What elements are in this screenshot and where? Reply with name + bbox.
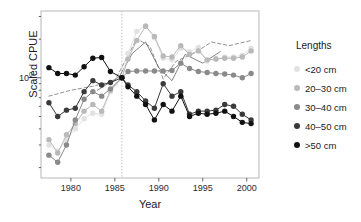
legend-item-label: <20 cm [305,64,336,75]
data-point [90,56,95,61]
data-point [73,72,78,77]
data-point [160,68,165,73]
data-point [108,80,113,85]
data-point [90,102,95,107]
x-axis-ticks [71,178,247,182]
data-point [222,102,227,107]
x-tick-label-1990: 1990 [147,183,171,193]
y-axis-label: Scaled CPUE [27,9,39,119]
data-point [134,93,139,98]
data-point [187,52,192,57]
x-axis-label: Year [41,198,259,210]
data-series [46,23,254,165]
data-point [99,108,104,113]
data-point [125,69,130,74]
legend-item-40-50: 40–50 cm [294,119,347,133]
series-0 [46,23,254,154]
legend-title: Lengths [296,40,332,51]
x-tick-label-2000: 2000 [235,183,259,193]
fit-lines [49,39,251,97]
data-point [64,132,69,137]
data-point [73,117,78,122]
data-point [231,104,236,109]
legend-swatch-icon [294,142,300,148]
data-point [81,116,86,121]
data-point [213,56,218,61]
data-point [169,68,174,73]
data-point [134,38,139,43]
data-point [240,112,245,117]
data-point [196,48,201,53]
data-point [240,75,245,80]
legend-item-label: 30–40 cm [305,102,347,113]
data-point [213,111,218,116]
data-point [187,114,192,119]
data-point [99,55,104,60]
data-point [204,70,209,75]
legend-item-label: >50 cm [305,140,336,151]
data-point [204,57,209,62]
data-point [108,86,113,91]
data-point [143,68,148,73]
y-tick-label-1e0: 100 [19,71,33,83]
data-point [231,56,236,61]
data-point [64,107,69,112]
data-point [125,84,130,89]
data-point [90,89,95,94]
chart-root: Scaled CPUE Year 100 1980 1985 1990 1995… [0,0,361,222]
data-point [196,69,201,74]
legend-item-label: 40–50 cm [305,121,347,132]
data-point [248,48,253,53]
data-point [134,68,139,73]
data-point [231,114,236,119]
data-point [196,111,201,116]
data-point [55,160,60,165]
data-point [90,78,95,83]
data-point [152,117,157,122]
data-point [73,105,78,110]
data-point [231,72,236,77]
data-point [178,60,183,65]
data-point [134,29,139,34]
legend-swatch-icon [294,123,300,129]
data-point [152,34,157,39]
data-point [125,56,130,61]
x-tick-label-1995: 1995 [191,183,215,193]
x-tick-label-1985: 1985 [103,183,127,193]
data-point [90,111,95,116]
legend-item-30-40: 30–40 cm [294,100,347,114]
data-point [169,54,174,59]
data-point [160,81,165,86]
legend-swatch-icon [294,104,300,110]
data-point [73,126,78,131]
legend-item-gt50: >50 cm [294,138,336,152]
data-point [169,93,174,98]
legend-swatch-icon [294,66,300,72]
x-tick-label-1980: 1980 [59,183,83,193]
data-point [55,114,60,119]
fit-lt20 [49,39,251,97]
legend-item-lt20: <20 cm [294,62,336,76]
data-point [64,142,69,147]
data-point [248,71,253,76]
data-point [81,64,86,69]
data-point [240,120,245,125]
data-point [152,68,157,73]
data-point [248,121,253,126]
data-point [240,54,245,59]
data-point [55,71,60,76]
data-point [222,56,227,61]
legend-item-label: 20–30 cm [305,83,347,94]
legend-item-20-30: 20–30 cm [294,81,347,95]
data-point [81,108,86,113]
data-point [222,108,227,113]
data-point [178,93,183,98]
data-point [204,112,209,117]
data-point [46,65,51,70]
data-point [169,108,174,113]
data-point [81,97,86,102]
data-point [160,53,165,58]
data-point [64,71,69,76]
data-point [46,152,51,157]
plot-frame [41,11,259,178]
